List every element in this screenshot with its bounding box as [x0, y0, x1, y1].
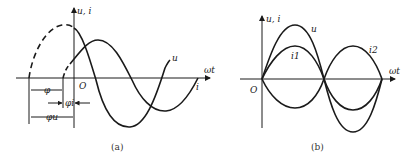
i1-label-b: i1 — [291, 51, 300, 61]
i-label-a: i — [196, 82, 199, 92]
u-curve-dashed — [29, 25, 74, 78]
phi-u-label: φu — [46, 112, 58, 122]
x-axis-label-b: ωt — [389, 66, 400, 76]
i1-curve-b — [262, 46, 382, 110]
caption-b: (b) — [311, 142, 324, 152]
phi-i-label: φi — [65, 98, 74, 108]
caption-a: (a) — [111, 142, 123, 152]
origin-label-a: O — [79, 81, 87, 91]
y-axis-label-a: u, i — [77, 6, 92, 16]
u-label-b: u — [311, 24, 317, 34]
i2-curve-b — [262, 46, 382, 108]
y-axis-label-b: u, i — [266, 14, 281, 24]
u-label-a: u — [172, 53, 178, 63]
figure-a: u, i ωt O u i φ φi φu (a) — [16, 6, 215, 152]
figure-b: u, i ωt O u i1 i2 (b) — [240, 14, 400, 152]
phi-label: φ — [44, 85, 51, 95]
x-axis-label-a: ωt — [204, 65, 215, 75]
origin-label-b: O — [250, 85, 258, 95]
i-curve — [70, 40, 198, 111]
i2-label-b: i2 — [369, 45, 378, 55]
waveform-diagrams: u, i ωt O u i φ φi φu (a) u, i ωt O u i1… — [0, 0, 413, 165]
i-curve-dashed — [63, 64, 70, 78]
